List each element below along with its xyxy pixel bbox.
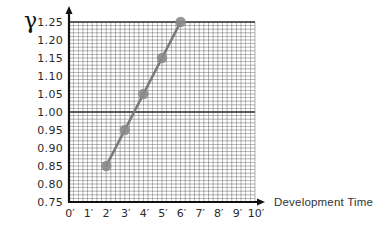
chart-grid (69, 22, 255, 202)
y-tick-label: 0.75 (37, 196, 63, 209)
x-axis-label: Development Time (274, 196, 373, 208)
y-tick-label: 0.95 (37, 124, 63, 137)
y-tick-label: 0.90 (37, 142, 63, 155)
y-tick-label: 1.10 (37, 70, 63, 83)
data-point-marker (157, 53, 167, 63)
x-axis-tick-labels: 0′1′2′3′4′5′6′7′8′9′10′ (65, 207, 264, 220)
x-tick-label: 2′ (102, 207, 112, 220)
data-point-marker (175, 17, 185, 27)
y-axis-label-gamma: γ (24, 8, 37, 33)
data-point-marker (138, 89, 148, 99)
x-tick-label: 8′ (214, 207, 224, 220)
x-tick-label: 10′ (248, 207, 265, 220)
y-tick-label: 1.15 (37, 52, 63, 65)
x-tick-label: 7′ (195, 207, 205, 220)
y-tick-label: 1.05 (37, 88, 63, 101)
x-tick-label: 9′ (233, 207, 243, 220)
gamma-development-chart: 0.750.800.850.900.951.001.051.101.151.20… (0, 0, 387, 225)
y-tick-label: 1.25 (37, 16, 63, 29)
y-axis-tick-labels: 0.750.800.850.900.951.001.051.101.151.20… (37, 16, 63, 209)
x-tick-label: 5′ (158, 207, 168, 220)
x-tick-label: 0′ (65, 207, 75, 220)
x-tick-label: 4′ (140, 207, 150, 220)
y-tick-label: 1.00 (37, 106, 63, 119)
x-tick-label: 6′ (177, 207, 187, 220)
x-tick-label: 1′ (84, 207, 94, 220)
y-tick-label: 0.85 (37, 160, 63, 173)
data-point-marker (120, 125, 130, 135)
x-tick-label: 3′ (121, 207, 131, 220)
y-tick-label: 1.20 (37, 34, 63, 47)
chart-axes (66, 6, 266, 206)
y-tick-label: 0.80 (37, 178, 63, 191)
data-point-marker (101, 161, 111, 171)
